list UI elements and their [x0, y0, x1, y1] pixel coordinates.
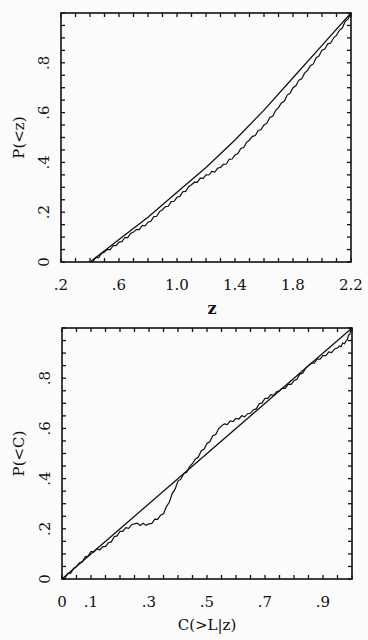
y-tick-label: .2: [35, 205, 53, 219]
y-axis-title: P(<C): [10, 431, 28, 477]
x-tick-label: 1.8: [281, 276, 305, 294]
y-tick-label: .8: [36, 371, 54, 385]
x-tick-label: .7: [258, 593, 272, 611]
x-tick-label: 2.2: [339, 276, 363, 294]
x-tick-label: .9: [316, 593, 330, 611]
figure: .2.61.01.41.82.20.2.4.6.8zP(<z) 0.1.3.5.…: [0, 0, 368, 640]
y-tick-label: 0: [35, 257, 53, 267]
x-axis-title: C(>L|z): [178, 616, 237, 634]
chart-z-distribution: .2.61.01.41.82.20.2.4.6.8zP(<z): [10, 13, 363, 318]
y-tick-label: .2: [36, 522, 54, 536]
x-tick-label: .3: [142, 593, 156, 611]
x-tick-label: .5: [200, 593, 214, 611]
y-tick-label: .6: [36, 421, 54, 435]
y-tick-label: .8: [35, 56, 53, 70]
y-tick-label: .6: [35, 105, 53, 119]
model-curve: [90, 13, 351, 262]
y-tick-label: .4: [36, 471, 54, 485]
x-axis-title: z: [207, 299, 216, 318]
y-tick-label: .4: [35, 155, 53, 169]
y-axis-title: P(<z): [10, 116, 28, 158]
chart-c-distribution: 0.1.3.5.7.90.2.4.6.8C(>L|z)P(<C): [10, 328, 352, 634]
x-tick-label: .1: [84, 593, 98, 611]
x-tick-label: 0: [57, 593, 67, 611]
x-tick-label: .6: [112, 276, 126, 294]
x-tick-label: 1.4: [223, 276, 247, 294]
x-tick-label: .2: [54, 276, 68, 294]
y-tick-label: 0: [36, 574, 54, 584]
observed-curve: [90, 13, 351, 262]
plot-frame: [61, 13, 351, 262]
x-tick-label: 1.0: [165, 276, 189, 294]
